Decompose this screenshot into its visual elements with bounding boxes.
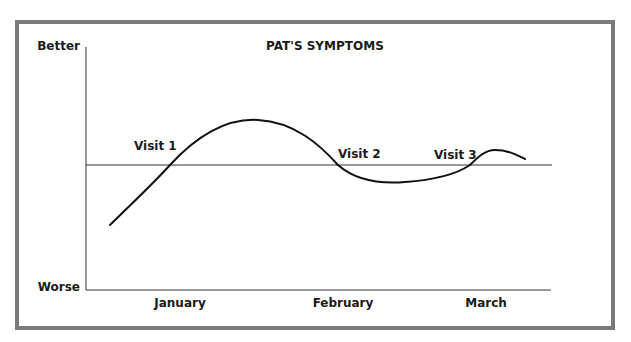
x-tick-january: January [153, 296, 206, 310]
y-label-worse: Worse [38, 280, 80, 294]
x-tick-march: March [465, 296, 507, 310]
symptoms-chart: PAT'S SYMPTOMS Better Worse January Febr… [0, 0, 631, 342]
x-tick-february: February [313, 296, 374, 310]
annotation-visit-3: Visit 3 [434, 148, 477, 162]
chart-title: PAT'S SYMPTOMS [266, 39, 384, 53]
symptom-curve [110, 120, 525, 225]
annotation-visit-1: Visit 1 [134, 139, 177, 153]
y-label-better: Better [37, 39, 80, 53]
annotation-visit-2: Visit 2 [338, 147, 381, 161]
